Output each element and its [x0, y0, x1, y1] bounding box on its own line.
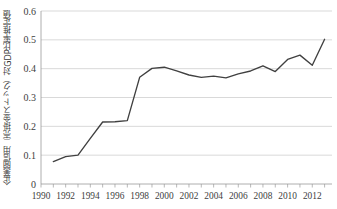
- y-axis-tick-labels: 00.10.20.30.40.50.6: [24, 6, 37, 190]
- x-axis-tick-label: 1992: [56, 191, 75, 201]
- x-axis-tick-label: 2000: [155, 191, 174, 201]
- y-axis-tick-label: 0.1: [24, 150, 37, 161]
- x-axis-tick-label: 2004: [204, 191, 223, 201]
- chart-figure: 企業間信用（売掛金ストック）対GDP比率推定値 00.10.20.30.40.5…: [0, 0, 337, 209]
- y-axis-tick-label: 0.6: [24, 6, 37, 17]
- y-axis-tick-label: 0.4: [24, 63, 37, 74]
- x-axis-tick-label: 1996: [106, 191, 125, 201]
- x-axis-tick-label: 1994: [81, 191, 100, 201]
- line-chart-plot: 00.10.20.30.40.50.6 19901992199419961998…: [0, 0, 337, 209]
- x-axis-tickmarks: [41, 184, 325, 188]
- x-axis-tick-label: 1998: [130, 191, 149, 201]
- x-axis-tick-label: 2008: [254, 191, 273, 201]
- y-axis-tick-label: 0.3: [24, 92, 37, 103]
- x-axis-tick-label: 2012: [303, 191, 322, 201]
- x-axis-tick-label: 2010: [278, 191, 297, 201]
- x-axis-tick-label: 2002: [180, 191, 199, 201]
- y-axis-tick-label: 0.2: [24, 121, 37, 132]
- x-axis-tick-labels: 1990199219941996199820002002200420062008…: [32, 191, 322, 201]
- y-axis-tick-label: 0.5: [24, 34, 37, 45]
- x-axis-tick-label: 2006: [229, 191, 248, 201]
- y-axis-tick-label: 0: [31, 179, 36, 190]
- data-series-line: [53, 39, 324, 161]
- x-axis-tick-label: 1990: [32, 191, 51, 201]
- gridlines-group: [41, 11, 332, 155]
